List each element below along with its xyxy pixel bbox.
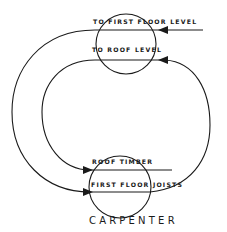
label-to-first-floor-level: TO FIRST FLOOR LEVEL <box>93 19 197 25</box>
diagram-caption: CARPENTER <box>89 216 178 226</box>
arrow-left-icon <box>158 56 168 64</box>
right-flow-arc <box>150 60 210 192</box>
inner-flow-line <box>42 60 172 170</box>
arrow-left-icon <box>158 26 168 34</box>
label-to-roof-level: TO ROOF LEVEL <box>92 47 162 53</box>
outer-flow-line <box>12 30 203 192</box>
label-first-floor-joists: FIRST FLOOR JOISTS <box>91 182 183 188</box>
label-roof-timber: ROOF TIMBER <box>92 159 153 165</box>
arrow-right-icon <box>83 166 93 174</box>
carpenter-flow-diagram <box>0 0 227 232</box>
arrow-right-icon <box>83 188 93 196</box>
